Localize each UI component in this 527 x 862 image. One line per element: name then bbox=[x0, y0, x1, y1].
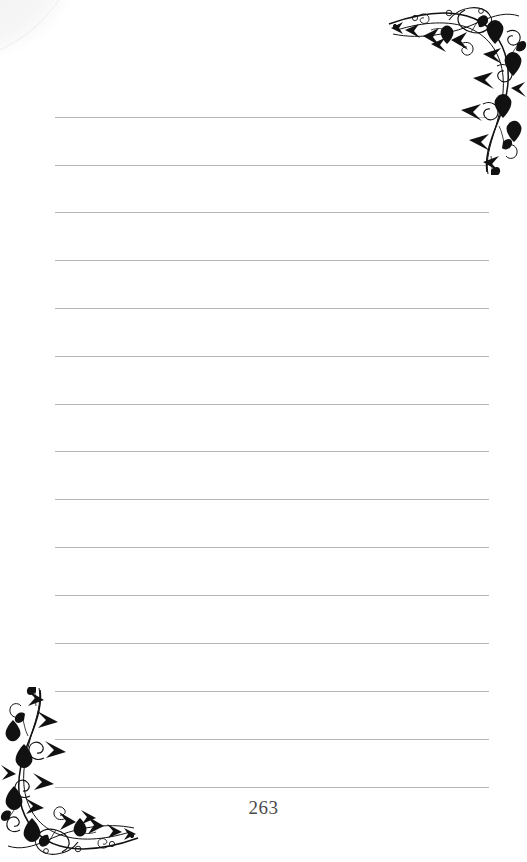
ruled-line bbox=[55, 595, 489, 596]
scan-edge-smudge bbox=[0, 0, 78, 62]
ruled-line bbox=[55, 117, 487, 118]
ruled-line bbox=[55, 499, 489, 500]
floral-vine-corner-ornament-top-right bbox=[387, 0, 527, 175]
scan-edge-smudge-outline bbox=[0, 0, 81, 66]
ruled-line bbox=[55, 691, 489, 692]
floral-vine-corner-ornament-bottom-left bbox=[0, 687, 140, 862]
ruled-line bbox=[55, 739, 489, 740]
ruled-line bbox=[55, 356, 489, 357]
ruled-line bbox=[55, 308, 489, 309]
ruled-line bbox=[55, 212, 489, 213]
ruled-line bbox=[55, 643, 489, 644]
ruled-line bbox=[55, 547, 489, 548]
ruled-line bbox=[55, 404, 489, 405]
ruled-line bbox=[55, 451, 489, 452]
ruled-line bbox=[55, 787, 489, 788]
page-number: 263 bbox=[0, 797, 527, 819]
journal-page: 263 bbox=[0, 0, 527, 862]
ruled-line bbox=[55, 165, 487, 166]
ruled-line bbox=[55, 260, 489, 261]
